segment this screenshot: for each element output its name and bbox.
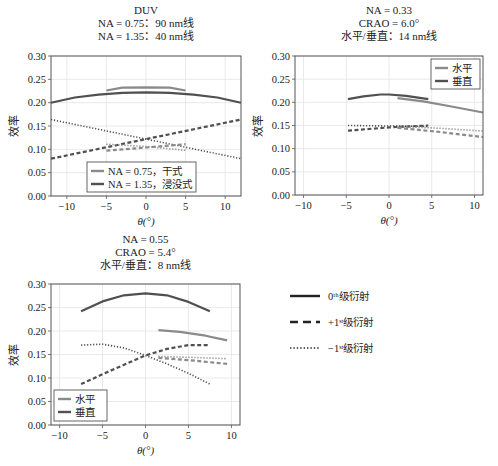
legend-label: 水平: [452, 63, 472, 74]
series-line: [398, 98, 484, 112]
y-tick-label: 0.10: [272, 143, 290, 154]
chart-title-line: 水平/垂直：14 nm线: [341, 29, 438, 42]
chart-title-line: 水平/垂直：8 nm线: [100, 258, 191, 271]
y-tick-label: 0.00: [28, 420, 46, 431]
series-lines: [348, 95, 483, 138]
series-line: [398, 128, 484, 137]
y-tick-label: 0.15: [272, 120, 290, 131]
y-tick-label: 0.15: [28, 121, 46, 132]
x-axis-label: θ(°): [137, 444, 154, 457]
x-axis-label: θ(°): [380, 214, 397, 227]
y-tick-label: 0.25: [272, 74, 290, 85]
y-tick-label: 0.20: [28, 326, 46, 337]
chart-legend: 水平垂直: [54, 390, 107, 421]
x-tick-label: −5: [101, 201, 112, 212]
chart-title-line: NA = 0.55: [122, 233, 169, 245]
chart-title-line: NA = 0.33: [366, 4, 413, 16]
x-tick-label: 5: [183, 201, 188, 212]
series-line: [158, 358, 227, 364]
series-lines: [81, 293, 227, 384]
x-tick-label: 0: [143, 430, 148, 441]
legend-label: NA = 1.35，浸没式: [108, 178, 193, 190]
x-tick-label: 10: [220, 201, 231, 212]
x-tick-label: −10: [59, 201, 75, 212]
y-tick-label: 0.05: [272, 166, 290, 177]
x-tick-label: −10: [295, 200, 311, 211]
series-line: [158, 330, 227, 340]
chart-na033: NA = 0.33CRAO = 6.0°水平/垂直：14 nm线0.000.05…: [251, 4, 483, 227]
chart-title-line: DUV: [134, 4, 158, 16]
x-tick-label: −5: [97, 430, 108, 441]
legend-label: NA = 0.75，干式: [108, 165, 183, 177]
x-tick-label: 10: [226, 430, 237, 441]
y-tick-label: 0.20: [272, 97, 290, 108]
legend-order-label: 0ᵗʰ级衍射: [328, 290, 370, 302]
x-tick-label: 0: [143, 201, 148, 212]
y-tick-label: 0.00: [28, 191, 46, 202]
series-line: [398, 126, 484, 131]
y-axis-label: 效率: [7, 115, 20, 137]
x-tick-label: 5: [186, 430, 191, 441]
chart-title-line: CRAO = 6.0°: [359, 17, 419, 29]
chart-legend: 水平垂直: [431, 59, 480, 89]
y-tick-label: 0.10: [28, 144, 46, 155]
y-tick-label: 0.05: [28, 396, 46, 407]
y-tick-label: 0.15: [28, 349, 46, 360]
x-tick-label: −5: [341, 200, 352, 211]
x-tick-label: −10: [51, 430, 67, 441]
x-axis-label: θ(°): [137, 215, 154, 228]
legend-label: 垂直: [75, 406, 96, 418]
series-line: [348, 95, 428, 100]
y-tick-label: 0.30: [272, 51, 290, 62]
y-tick-label: 0.20: [28, 97, 46, 108]
y-tick-label: 0.05: [28, 167, 46, 178]
x-tick-label: 5: [429, 200, 434, 211]
chart-na055: NA = 0.55CRAO = 5.4°水平/垂直：8 nm线0.000.050…: [7, 233, 240, 457]
y-tick-label: 0.10: [28, 373, 46, 384]
figure-canvas: DUVNA = 0.75：90 nm线NA = 1.35：40 nm线0.000…: [0, 0, 498, 466]
diffraction-order-legend: 0ᵗʰ级衍射+1ˢᵗ级衍射−1ˢᵗ级衍射: [290, 290, 374, 354]
legend-label: 垂直: [452, 75, 473, 87]
y-axis-label: 效率: [251, 115, 264, 137]
chart-title-line: NA = 0.75：90 nm线: [98, 16, 194, 29]
y-tick-label: 0.00: [272, 190, 290, 201]
chart-title-line: NA = 1.35：40 nm线: [98, 29, 194, 42]
chart-legend: NA = 0.75，干式NA = 1.35，浸没式: [87, 162, 196, 192]
x-tick-label: 10: [469, 200, 480, 211]
y-axis-label: 效率: [7, 344, 20, 366]
legend-order-label: −1ˢᵗ级衍射: [328, 342, 374, 354]
legend-order-label: +1ˢᵗ级衍射: [328, 316, 374, 328]
chart-duv: DUVNA = 0.75：90 nm线NA = 1.35：40 nm线0.000…: [7, 4, 241, 228]
legend-label: 水平: [75, 394, 95, 405]
y-tick-label: 0.25: [28, 74, 46, 85]
y-tick-label: 0.30: [28, 51, 46, 62]
chart-title-line: CRAO = 5.4°: [115, 246, 175, 258]
x-tick-label: 0: [386, 200, 391, 211]
y-tick-label: 0.30: [28, 279, 46, 290]
y-tick-label: 0.25: [28, 302, 46, 313]
